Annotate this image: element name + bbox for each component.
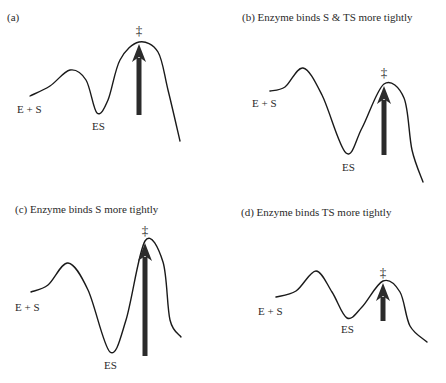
label-e-plus-s: E + S — [258, 305, 283, 317]
panel-title: (c) Enzyme binds S more tightly — [15, 203, 159, 216]
panel-d: (d) Enzyme binds TS more tightly‡E + SES — [241, 206, 427, 342]
energy-curve — [31, 238, 181, 353]
activation-energy-arrow-icon — [377, 86, 391, 155]
panel-c: (c) Enzyme binds S more tightly‡E + SES — [15, 203, 181, 371]
transition-state-dagger-icon: ‡ — [142, 223, 149, 238]
activation-energy-arrow-icon — [376, 283, 390, 321]
label-e-plus-s: E + S — [252, 97, 277, 109]
transition-state-dagger-icon: ‡ — [381, 65, 388, 80]
label-es: ES — [92, 120, 105, 132]
panel-a: (a)‡E + SES — [7, 11, 180, 141]
energy-curve — [30, 42, 180, 141]
transition-state-dagger-icon: ‡ — [136, 23, 143, 38]
transition-state-dagger-icon: ‡ — [380, 265, 387, 280]
label-es: ES — [341, 323, 354, 335]
panel-title: (b) Enzyme binds S & TS more tightly — [242, 11, 413, 24]
label-e-plus-s: E + S — [15, 301, 40, 313]
label-es: ES — [342, 161, 355, 173]
panel-title: (a) — [7, 11, 20, 24]
activation-energy-arrow-icon — [132, 44, 146, 115]
activation-energy-arrow-icon — [138, 243, 152, 356]
label-e-plus-s: E + S — [17, 103, 42, 115]
panel-b: (b) Enzyme binds S & TS more tightly‡E +… — [242, 11, 423, 182]
label-es: ES — [104, 359, 117, 371]
panel-title: (d) Enzyme binds TS more tightly — [241, 206, 392, 219]
enzyme-energy-diagram: (a)‡E + SES(b) Enzyme binds S & TS more … — [0, 0, 446, 383]
